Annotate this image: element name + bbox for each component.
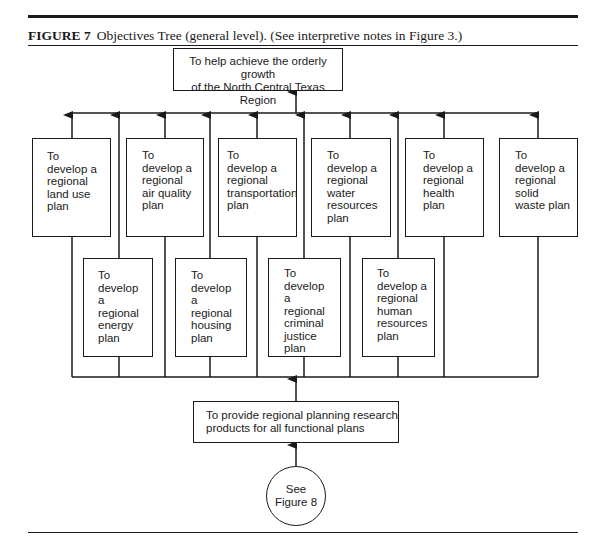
box-text-line: transportation [227, 187, 297, 200]
box-text-line: To [47, 150, 97, 163]
box-text-line: To [98, 269, 139, 282]
box-text-line: plan [142, 199, 192, 212]
box-text-line: solid [515, 187, 570, 200]
box-text-line: regional [142, 174, 192, 187]
box-text-line: justice [284, 330, 325, 343]
box-text-line: resources [327, 199, 378, 212]
box-text-line: develop [98, 282, 139, 295]
box-text-line: plan [98, 332, 139, 345]
box-text-line: plan [47, 200, 97, 213]
objective-energy-box: To develop a regional energy plan [83, 258, 153, 357]
objective-human-resources-box: To develop a regional human resources pl… [362, 258, 435, 357]
bottom-rule [28, 532, 578, 533]
box-text-line: land use [47, 188, 97, 201]
objective-air-quality-box: To develop a regional air quality plan [126, 138, 204, 237]
box-text-line: develop a [423, 162, 473, 175]
reference-line-1: See [275, 483, 317, 496]
foundation-line-1: To provide regional planning research [206, 409, 398, 422]
box-text-line: develop a [227, 162, 297, 175]
box-text-line: To [377, 267, 428, 280]
box-text-line: human [377, 305, 428, 318]
box-text-line: regional [284, 305, 325, 318]
box-text-line: regional [377, 292, 428, 305]
box-text-line: plan [191, 332, 232, 345]
goal-line-2: of the North Central Texas Region [174, 81, 342, 107]
box-text-line: regional [191, 307, 232, 320]
box-text-line: regional [227, 174, 297, 187]
box-text-line: regional [327, 174, 378, 187]
box-text-line: housing [191, 319, 232, 332]
box-text-line: develop [191, 282, 232, 295]
box-text-line: resources [377, 317, 428, 330]
box-text-line: a [284, 292, 325, 305]
box-text-line: To [423, 149, 473, 162]
box-text-line: health [423, 187, 473, 200]
box-text-line: plan [327, 212, 378, 225]
box-text-line: plan [377, 330, 428, 343]
box-text-line: plan [284, 342, 325, 355]
box-text-line: develop [284, 280, 325, 293]
box-text-line: To [515, 149, 570, 162]
box-text-line: energy [98, 319, 139, 332]
objective-housing-box: To develop a regional housing plan [175, 258, 247, 357]
objective-solid-waste-box: To develop a regional solid waste plan [499, 138, 578, 237]
reference-line-2: Figure 8 [275, 496, 317, 509]
box-text-line: develop a [515, 162, 570, 175]
objective-transportation-box: To develop a regional transportation pla… [218, 138, 297, 237]
box-text-line: regional [47, 175, 97, 188]
box-text-line: develop a [142, 162, 192, 175]
box-text-line: To [227, 149, 297, 162]
box-text-line: regional [515, 174, 570, 187]
box-text-line: develop a [47, 163, 97, 176]
box-text-line: regional [98, 307, 139, 320]
box-text-line: criminal [284, 317, 325, 330]
box-text-line: To [327, 149, 378, 162]
box-text-line: air quality [142, 187, 192, 200]
objective-health-box: To develop a regional health plan [405, 138, 484, 237]
box-text-line: develop a [327, 162, 378, 175]
box-text-line: plan [227, 199, 297, 212]
box-text-line: a [98, 294, 139, 307]
objective-criminal-justice-box: To develop a regional criminal justice p… [268, 258, 341, 357]
research-foundation-box: To provide regional planning research pr… [193, 401, 399, 443]
objective-land-use-box: To develop a regional land use plan [32, 138, 111, 237]
objective-water-resources-box: To develop a regional water resources pl… [311, 138, 391, 237]
goal-line-1: To help achieve the orderly growth [174, 55, 342, 81]
box-text-line: a [191, 294, 232, 307]
goal-box: To help achieve the orderly growth of th… [173, 48, 343, 91]
box-text-line: develop a [377, 280, 428, 293]
box-text-line: waste plan [515, 199, 570, 212]
box-text-line: To [284, 267, 325, 280]
box-text-line: water [327, 187, 378, 200]
box-text-line: regional [423, 174, 473, 187]
box-text-line: To [191, 269, 232, 282]
box-text-line: To [142, 149, 192, 162]
foundation-line-2: products for all functional plans [206, 422, 398, 435]
box-text-line: plan [423, 199, 473, 212]
see-figure-8-reference: See Figure 8 [266, 466, 326, 526]
